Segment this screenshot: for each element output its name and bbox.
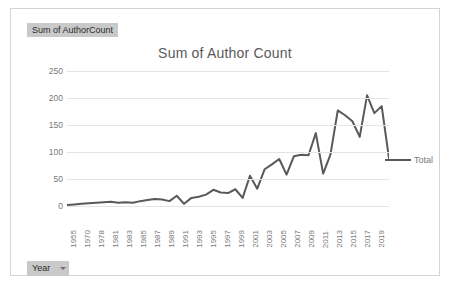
y-axis-tick-label: 250 <box>37 66 63 76</box>
x-axis-tick-label: 2005 <box>280 230 288 248</box>
gridline <box>67 206 389 207</box>
x-axis-tick-label: 1981 <box>112 230 120 248</box>
x-axis-tick-label: 1987 <box>154 230 162 248</box>
y-axis: 050100150200250 <box>33 71 63 206</box>
pivotchart-screenshot: Sum of AuthorCount Sum of Author Count 0… <box>0 0 456 289</box>
legend-line-swatch <box>385 159 411 161</box>
y-axis-tick-label: 0 <box>37 201 63 211</box>
plot-area <box>67 71 389 206</box>
plot-wrapper: 050100150200250 195519701978198119831985… <box>23 71 431 246</box>
legend-label-total: Total <box>414 155 433 165</box>
gridline <box>67 179 389 180</box>
pivot-row-field-label: Year <box>32 262 50 275</box>
x-axis-tick-label: 2019 <box>378 230 386 248</box>
x-axis-tick-label: 1995 <box>210 230 218 248</box>
x-axis-tick-label: 1983 <box>126 230 134 248</box>
y-axis-tick-label: 50 <box>37 174 63 184</box>
chart-card: Sum of AuthorCount Sum of Author Count 0… <box>10 8 440 276</box>
x-axis: 1955197019781981198319851987198919911993… <box>67 208 389 248</box>
x-axis-tick-label: 1991 <box>182 230 190 248</box>
x-axis-tick-label: 1970 <box>84 230 92 248</box>
x-axis-tick-label: 1997 <box>224 230 232 248</box>
pivot-value-field-label: Sum of AuthorCount <box>32 25 113 35</box>
x-axis-tick-label: 1989 <box>168 230 176 248</box>
chart-legend: Total <box>385 155 433 165</box>
x-axis-tick-label: 1993 <box>196 230 204 248</box>
x-axis-tick-label: 2007 <box>294 230 302 248</box>
pivot-value-field-button[interactable]: Sum of AuthorCount <box>27 23 118 37</box>
y-axis-tick-label: 200 <box>37 93 63 103</box>
x-axis-tick-label: 2001 <box>252 230 260 248</box>
x-axis-tick-label: 1999 <box>238 230 246 248</box>
x-axis-tick-label: 1985 <box>140 230 148 248</box>
x-axis-tick-label: 1978 <box>98 230 106 248</box>
y-axis-tick-label: 150 <box>37 120 63 130</box>
chevron-down-icon[interactable] <box>60 267 66 270</box>
x-axis-tick-label: 2011 <box>322 231 330 248</box>
gridline <box>67 152 389 153</box>
x-axis-tick-label: 2017 <box>364 230 372 248</box>
x-axis-tick-label: 1955 <box>70 230 78 248</box>
series-total-line <box>67 71 389 206</box>
x-axis-tick-label: 2009 <box>308 230 316 248</box>
x-axis-tick-label: 2013 <box>336 230 344 248</box>
gridline <box>67 98 389 99</box>
x-axis-tick-label: 2015 <box>350 230 358 248</box>
chart-title: Sum of Author Count <box>11 45 439 61</box>
pivot-row-field-button[interactable]: Year <box>27 261 69 276</box>
y-axis-tick-label: 100 <box>37 147 63 157</box>
x-axis-tick-label: 2003 <box>266 230 274 248</box>
gridline <box>67 125 389 126</box>
gridline <box>67 71 389 72</box>
